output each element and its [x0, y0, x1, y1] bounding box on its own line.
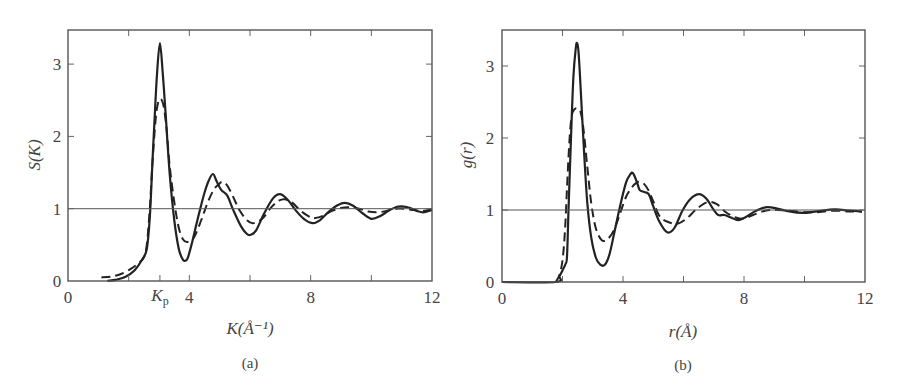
x-tick-label: 0: [498, 289, 507, 308]
y-tick-label: 0: [53, 272, 62, 291]
panel-b-caption: (b): [674, 357, 692, 374]
panel-b-x-axis-label: r(Å): [669, 322, 698, 341]
panel-b-ticks: [502, 30, 865, 282]
panel-a-y-axis-label: S(K): [25, 139, 44, 171]
y-tick-label: 2: [486, 129, 495, 148]
panel-a-x-tick-labels: 04812: [64, 288, 441, 307]
panel-a-ticks: [68, 30, 432, 281]
panel-a-x-axis-label: K(Å⁻¹): [225, 319, 273, 338]
y-tick-label: 3: [53, 55, 62, 74]
curve-dashed: [101, 99, 432, 278]
panel-b-curves: [502, 43, 862, 283]
x-tick-label: 8: [740, 289, 749, 308]
panel-b-x-tick-labels: 04812: [498, 289, 874, 308]
y-tick-label: 1: [486, 201, 495, 220]
y-tick-label: 1: [53, 200, 62, 219]
x-tick-label: 8: [306, 288, 315, 307]
panel-a-curves: [101, 43, 432, 281]
panel-a-caption: (a): [242, 355, 259, 372]
curve-solid: [502, 43, 862, 283]
panel-b-y-axis-label: g(r): [457, 141, 476, 168]
panel-a-frame: [68, 30, 432, 281]
y-tick-label: 0: [486, 273, 495, 292]
panel-b-y-tick-labels: 0123: [486, 57, 495, 292]
x-tick-label: 4: [185, 288, 194, 307]
x-tick-label: 4: [619, 289, 628, 308]
x-tick-label: 12: [857, 289, 874, 308]
y-tick-label: 2: [53, 127, 62, 146]
curve-solid: [107, 43, 432, 281]
curve-dashed: [556, 109, 862, 282]
figure: 0123 04812 Kp S(K) K(Å⁻¹) (a) 0123 04812…: [0, 0, 901, 392]
x-tick-label: 0: [64, 288, 73, 307]
panel-a-kp-label: Kp: [150, 286, 168, 308]
y-tick-label: 3: [486, 57, 495, 76]
panel-b: 0123 04812 g(r) r(Å) (b): [457, 30, 874, 374]
panel-b-frame: [502, 30, 865, 282]
panel-a-y-tick-labels: 0123: [53, 55, 62, 291]
x-tick-label: 12: [424, 288, 441, 307]
panel-a: 0123 04812 Kp S(K) K(Å⁻¹) (a): [25, 30, 441, 372]
